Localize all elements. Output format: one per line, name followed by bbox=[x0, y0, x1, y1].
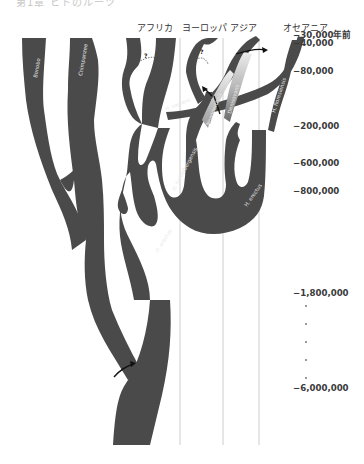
timeline-ellipsis-dot bbox=[305, 377, 307, 379]
timeline-label-800000: −800,000 bbox=[293, 186, 339, 196]
timeline-ellipsis-dot bbox=[305, 341, 307, 343]
timeline-label-80000: −80,000 bbox=[293, 66, 333, 76]
unknown-marker-europe: ? bbox=[200, 48, 204, 55]
timeline-label-200000: −200,000 bbox=[293, 121, 339, 131]
timeline-ellipsis-dot bbox=[305, 305, 307, 307]
unknown-marker-africa: ? bbox=[144, 52, 148, 59]
timeline-label-600000: −600,000 bbox=[293, 158, 339, 168]
timeline-ellipsis-dot bbox=[305, 359, 307, 361]
timeline-label-6000000: −6,000,000 bbox=[293, 383, 349, 393]
timeline-label-40000: −40,000 bbox=[293, 38, 333, 48]
label-h-erectus-africa: H. erectus bbox=[154, 228, 173, 254]
timeline-ellipsis-dot bbox=[305, 323, 307, 325]
timeline-label-1800000: −1,800,000 bbox=[293, 288, 349, 298]
